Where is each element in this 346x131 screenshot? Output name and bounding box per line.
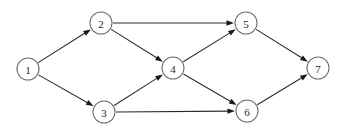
graph-diagram: 1234567 bbox=[0, 0, 346, 131]
arrowhead-5-to-7 bbox=[300, 55, 308, 61]
edge-1-to-3 bbox=[38, 75, 88, 103]
node-label-4: 4 bbox=[170, 63, 176, 75]
node-6: 6 bbox=[236, 100, 258, 122]
graph-canvas: 1234567 bbox=[0, 0, 346, 131]
node-1: 1 bbox=[17, 58, 39, 80]
arrowhead-2-to-5 bbox=[227, 20, 235, 25]
arrowhead-1-to-2 bbox=[83, 29, 91, 35]
arrowhead-6-to-7 bbox=[300, 74, 308, 80]
edge-4-to-5 bbox=[183, 33, 230, 62]
arrowhead-3-to-4 bbox=[155, 74, 163, 80]
node-4: 4 bbox=[162, 57, 184, 79]
edge-2-to-4 bbox=[111, 29, 157, 58]
node-label-3: 3 bbox=[101, 107, 107, 119]
node-3: 3 bbox=[93, 101, 115, 123]
node-label-7: 7 bbox=[315, 63, 321, 75]
arrowhead-1-to-3 bbox=[86, 100, 94, 106]
edge-5-to-7 bbox=[256, 29, 302, 58]
edge-3-to-6 bbox=[116, 111, 229, 112]
edge-6-to-7 bbox=[257, 78, 302, 105]
node-label-5: 5 bbox=[243, 18, 249, 30]
arrowhead-2-to-4 bbox=[155, 55, 163, 61]
node-label-1: 1 bbox=[25, 64, 31, 76]
arrowhead-4-to-6 bbox=[229, 99, 237, 105]
node-7: 7 bbox=[307, 57, 329, 79]
arrowhead-3-to-6 bbox=[227, 108, 235, 113]
node-5: 5 bbox=[235, 12, 257, 34]
node-label-6: 6 bbox=[244, 106, 250, 118]
node-label-2: 2 bbox=[98, 18, 104, 30]
arrowhead-4-to-5 bbox=[228, 29, 236, 35]
edge-3-to-4 bbox=[114, 78, 157, 106]
edge-1-to-2 bbox=[38, 33, 85, 63]
edge-4-to-6 bbox=[183, 74, 231, 102]
node-2: 2 bbox=[90, 12, 112, 34]
nodes-layer: 1234567 bbox=[17, 12, 329, 123]
